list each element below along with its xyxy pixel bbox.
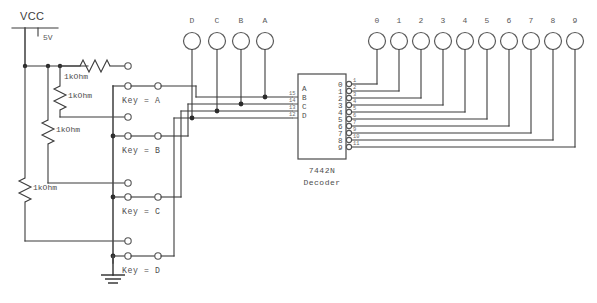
junction-dot: [190, 116, 195, 121]
input-probe-c-indicator[interactable]: [209, 33, 226, 50]
input-probe-b-indicator[interactable]: [233, 33, 250, 50]
ic-port-label-out-9: 9: [338, 144, 343, 152]
ic-out-pin-number-0: 1: [353, 78, 356, 84]
output-probe-2-label: 2: [419, 16, 424, 25]
sw-a-terminal-pole[interactable]: [125, 83, 131, 89]
ic-pin-number-c: 13: [289, 105, 295, 111]
output-probe-4-indicator[interactable]: [457, 33, 474, 50]
r3-zigzag: [42, 120, 54, 144]
sw-b-terminal-pole[interactable]: [125, 133, 131, 139]
r4-label: 1kOhm: [33, 183, 57, 192]
sw-d-terminal-nc[interactable]: [125, 238, 131, 244]
circuit-schematic: VCC 5V 1kOhm 1kOhm: [0, 0, 597, 303]
switch-key-b[interactable]: Key = B: [111, 104, 292, 155]
sw-d-terminal-no[interactable]: [155, 253, 161, 259]
ic-out-bubble-8: [346, 137, 351, 142]
input-probe-a-label: A: [263, 16, 268, 25]
input-probe-a-indicator[interactable]: [257, 33, 274, 50]
ic-out-bubble-9: [346, 144, 351, 149]
ic-port-label-c: C: [302, 103, 307, 111]
ic-out-bubble-0: [346, 81, 351, 86]
sw-d-terminal-pole[interactable]: [125, 253, 131, 259]
input-probe-c[interactable]: C: [209, 16, 226, 113]
sw-d-label: Key = D: [122, 266, 161, 275]
output-probe-0[interactable]: 0: [352, 16, 386, 84]
ic-port-label-b: B: [302, 94, 307, 102]
output-probe-9-indicator[interactable]: [567, 33, 584, 50]
output-probe-7-indicator[interactable]: [523, 33, 540, 50]
ic-out-bubble-1: [346, 88, 351, 93]
input-probe-b-label: B: [239, 16, 244, 25]
r4-zigzag: [19, 178, 31, 202]
output-probe-7-label: 7: [529, 16, 534, 25]
output-probe-5[interactable]: 5: [352, 16, 496, 119]
ic-out-pin-number-4: 5: [353, 106, 356, 112]
output-probe-3[interactable]: 3: [352, 16, 452, 105]
ic-out-bubble-3: [346, 102, 351, 107]
output-probe-6-indicator[interactable]: [501, 33, 518, 50]
junction-dot: [215, 109, 220, 114]
output-probe-2-indicator[interactable]: [413, 33, 430, 50]
ic-port-label-d: D: [302, 112, 307, 120]
ic-pin-number-a: 15: [289, 91, 295, 97]
sw-c-terminal-no[interactable]: [155, 194, 161, 200]
ic-out-pin-number-9: 11: [353, 141, 359, 147]
ic-out-pin-number-1: 2: [353, 85, 356, 91]
ic-description: Decoder: [303, 178, 340, 187]
sw-c-label: Key = C: [122, 207, 161, 216]
r2-zigzag: [54, 86, 66, 110]
r1-label: 1kOhm: [64, 72, 88, 81]
ic-out-bubble-2: [346, 95, 351, 100]
input-probe-d[interactable]: D: [184, 16, 201, 120]
output-probe-4-label: 4: [463, 16, 468, 25]
ic-out-pin-number-2: 3: [353, 92, 356, 98]
sw-b-label: Key = B: [122, 146, 161, 155]
output-probe-8-label: 8: [551, 16, 556, 25]
ic-out-bubble-7: [346, 130, 351, 135]
input-probe-a[interactable]: A: [257, 16, 274, 99]
resistor-r3: 1kOhm: [42, 66, 128, 183]
output-probe-1-label: 1: [397, 16, 402, 25]
ic-out-bubble-6: [346, 123, 351, 128]
junction-dot: [239, 102, 244, 107]
ic-out-pin-number-7: 9: [353, 127, 356, 133]
input-probe-d-label: D: [190, 16, 195, 25]
output-probe-2[interactable]: 2: [352, 16, 430, 98]
ic-out-pin-number-6: 7: [353, 120, 356, 126]
sw-b-terminal-nc[interactable]: [125, 114, 131, 120]
output-probe-9-label: 9: [573, 16, 578, 25]
junction-dot: [263, 95, 268, 100]
ic-out-pin-number-3: 4: [353, 99, 356, 105]
r3-label: 1kOhm: [56, 125, 80, 134]
output-probe-5-label: 5: [485, 16, 490, 25]
output-probe-1-indicator[interactable]: [391, 33, 408, 50]
vcc-label: VCC: [20, 10, 44, 22]
sw-c-terminal-pole[interactable]: [125, 194, 131, 200]
ic-pin-number-b: 14: [289, 98, 295, 104]
resistor-r1: 1kOhm: [60, 60, 128, 81]
output-probe-8-indicator[interactable]: [545, 33, 562, 50]
ic-part-number: 7442N: [309, 166, 336, 175]
ic-out-pin-number-5: 6: [353, 113, 356, 119]
output-probe-5-indicator[interactable]: [479, 33, 496, 50]
sw-c-terminal-nc[interactable]: [125, 180, 131, 186]
ic-pin-number-d: 12: [289, 112, 295, 118]
voltage-label: 5V: [43, 33, 53, 42]
sw-b-terminal-no[interactable]: [155, 133, 161, 139]
ic-out-bubble-5: [346, 116, 351, 121]
switch-key-c[interactable]: Key = C: [111, 111, 292, 216]
sw-a-terminal-nc[interactable]: [125, 63, 131, 69]
ic-out-bubble-4: [346, 109, 351, 114]
input-probe-d-indicator[interactable]: [184, 33, 201, 50]
output-probe-0-label: 0: [375, 16, 380, 25]
output-probe-0-indicator[interactable]: [369, 33, 386, 50]
output-probe-3-indicator[interactable]: [435, 33, 452, 50]
ic-port-label-a: A: [302, 85, 307, 93]
input-probe-b[interactable]: B: [233, 16, 250, 106]
sw-a-terminal-no[interactable]: [155, 83, 161, 89]
r2-label: 1kOhm: [68, 91, 92, 100]
vcc-source: VCC 5V: [12, 10, 58, 66]
ic-7442n[interactable]: 15 14 13 12 A B C D 0 1 2 3 4 5 6 7 8 9: [289, 74, 359, 187]
output-probe-3-label: 3: [441, 16, 446, 25]
output-probe-1[interactable]: 1: [352, 16, 408, 91]
